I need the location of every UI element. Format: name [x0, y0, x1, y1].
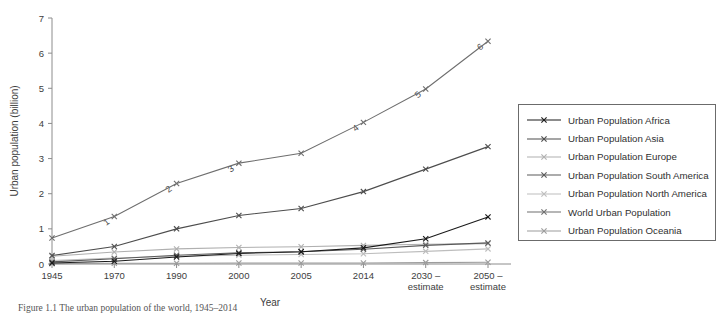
series-group [49, 39, 490, 241]
legend-item[interactable]: World Urban Population [519, 203, 715, 221]
y-tick-label: 3 [39, 153, 44, 164]
series-line [52, 217, 488, 263]
y-tick-label: 6 [39, 48, 44, 59]
series-line [52, 41, 488, 238]
legend-marker-icon [526, 188, 562, 200]
legend-marker-icon [526, 169, 562, 181]
chart-legend: Urban Population AfricaUrban Population … [518, 104, 716, 241]
y-tick-label: 1 [39, 223, 44, 234]
legend-marker-icon [526, 225, 562, 237]
legend-marker-icon [526, 133, 562, 145]
legend-item-label: Urban Population Oceania [568, 225, 682, 236]
legend-item[interactable]: Urban Population Europe [519, 148, 715, 166]
x-tick-label: 2014 [353, 270, 374, 281]
legend-item[interactable]: Urban Population Africa [519, 111, 715, 129]
x-tick-label: 2050 – [473, 270, 503, 281]
x-tick-label: 1945 [41, 270, 62, 281]
legend-item-label: Urban Population North America [568, 188, 707, 199]
legend-marker-icon [526, 114, 562, 126]
x-tick-label-second-line: estimate [470, 281, 506, 292]
legend-item[interactable]: Urban Population North America [519, 185, 715, 203]
legend-item-label: Urban Population Europe [568, 151, 677, 162]
series-point-marker [423, 86, 428, 91]
x-tick-label: 2005 [291, 270, 312, 281]
y-tick-label: 2 [39, 188, 44, 199]
x-tick-label: 1990 [166, 270, 187, 281]
series-point-marker [174, 181, 179, 186]
series-line [52, 262, 488, 263]
x-tick-label: 2000 [228, 270, 249, 281]
series-point-marker [112, 214, 117, 219]
y-tick-label: 7 [39, 13, 44, 24]
figure-caption: Figure 1.1 The urban population of the w… [18, 303, 237, 313]
y-tick-label: 5 [39, 83, 44, 94]
legend-item-label: World Urban Population [568, 207, 671, 218]
legend-item[interactable]: Urban Population Asia [519, 129, 715, 147]
y-tick-label: 0 [39, 259, 44, 270]
series-point-marker [361, 120, 366, 125]
legend-item[interactable]: Urban Population South America [519, 166, 715, 184]
figure-container: 01234567Urban population (billion)194519… [0, 0, 726, 315]
legend-item-label: Urban Population Africa [568, 115, 670, 126]
legend-item-label: Urban Population South America [568, 170, 709, 181]
y-axis-title: Urban population (billion) [9, 85, 20, 196]
x-tick-label: 1970 [104, 270, 125, 281]
series-point-marker [485, 144, 490, 149]
x-axis-title: Year [260, 297, 281, 308]
legend-marker-icon [526, 206, 562, 218]
series-group [49, 144, 490, 258]
series-point-marker [423, 167, 428, 172]
x-tick-label: 2030 – [411, 270, 441, 281]
legend-marker-icon [526, 151, 562, 163]
series-point-marker [485, 39, 490, 44]
series-point-marker [485, 214, 490, 219]
legend-item[interactable]: Urban Population Oceania [519, 221, 715, 239]
y-tick-label: 4 [39, 118, 44, 129]
legend-item-label: Urban Population Asia [568, 133, 664, 144]
x-tick-label-second-line: estimate [408, 281, 444, 292]
